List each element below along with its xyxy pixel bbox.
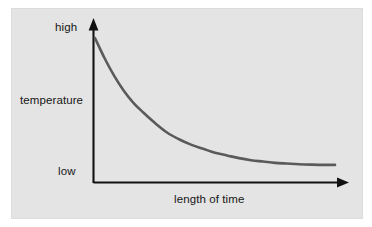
y-axis-title-label: temperature [20,95,83,107]
decay-curve [95,38,335,165]
y-axis-low-label: low [58,166,76,178]
x-axis-title-label: length of time [174,194,244,206]
figure-root: high temperature low length of time [0,0,372,227]
y-axis-high-label: high [55,22,77,34]
y-axis-arrow-icon [89,18,99,31]
x-axis-arrow-icon [337,178,349,188]
